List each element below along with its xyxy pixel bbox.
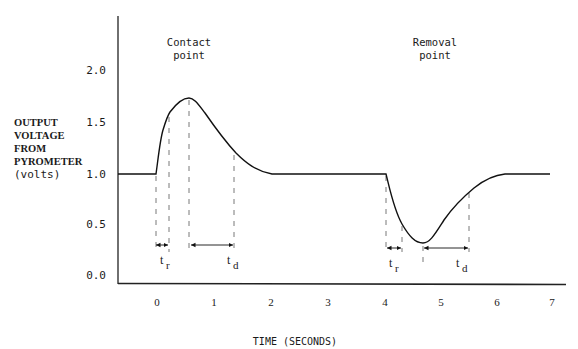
dashed-guides (156, 100, 469, 262)
duration-arrows (156, 245, 468, 248)
y-axis-label: OUTPUT VOLTAGE FROM PYROMETER (volts) (14, 117, 83, 181)
svg-text:point: point (419, 49, 451, 61)
x-tick: 0 (154, 296, 160, 308)
y-tick: 2.0 (86, 64, 106, 77)
y-tick: 0.5 (86, 218, 106, 231)
svg-text:Contact: Contact (167, 36, 211, 48)
y-tick: 0.0 (86, 269, 106, 282)
contact-point-label: Contact point (167, 36, 211, 61)
signal-curve (118, 98, 550, 243)
x-tick: 2 (268, 296, 274, 308)
svg-text:d: d (462, 262, 468, 274)
y-label-line: FROM (14, 143, 46, 154)
y-label-line: (volts) (14, 168, 60, 181)
svg-text:r: r (395, 262, 399, 274)
x-tick: 7 (549, 296, 555, 308)
x-tick: 1 (211, 296, 217, 308)
td-label-2: t d (456, 256, 468, 274)
svg-text:t: t (456, 256, 460, 270)
y-tick: 1.5 (86, 116, 106, 129)
x-tick-labels: 0 1 2 3 4 5 6 7 (154, 296, 555, 308)
x-axis (118, 284, 566, 285)
td-label-1: t d (227, 253, 239, 271)
x-tick: 5 (438, 296, 444, 308)
svg-text:d: d (233, 259, 239, 271)
svg-text:t: t (160, 253, 164, 267)
y-tick: 1.0 (86, 168, 106, 181)
y-label-line: OUTPUT (14, 117, 58, 128)
x-tick: 6 (494, 296, 500, 308)
pyrometer-chart: OUTPUT VOLTAGE FROM PYROMETER (volts) 2.… (0, 0, 578, 349)
x-tick: 4 (382, 296, 388, 308)
y-label-line: VOLTAGE (14, 130, 65, 141)
svg-text:point: point (173, 49, 205, 61)
x-tick: 3 (325, 296, 331, 308)
tr-label-1: t r (160, 253, 170, 271)
svg-text:t: t (227, 253, 231, 267)
removal-point-label: Removal point (413, 36, 457, 61)
x-axis-title: TIME (SECONDS) (253, 336, 337, 347)
y-tick-labels: 2.0 1.5 1.0 0.5 0.0 (86, 64, 106, 282)
y-label-line: PYROMETER (14, 156, 83, 167)
svg-text:r: r (166, 259, 170, 271)
svg-text:t: t (389, 256, 393, 270)
tr-label-2: t r (389, 256, 399, 274)
svg-text:Removal: Removal (413, 36, 457, 48)
